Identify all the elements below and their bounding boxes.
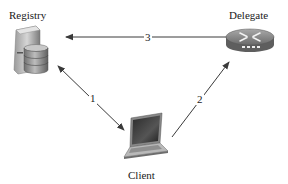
delegate-label: Delegate: [229, 9, 268, 21]
edge-3-label: 3: [144, 32, 152, 43]
edge-1-label: 1: [89, 93, 97, 104]
edge-2-label: 2: [196, 94, 204, 105]
database-server-icon: [14, 26, 48, 74]
registry-label: Registry: [9, 9, 46, 21]
laptop-icon: [124, 113, 168, 159]
client-label: Client: [128, 169, 155, 181]
router-icon: [226, 29, 274, 52]
diagram-canvas: [0, 0, 288, 184]
